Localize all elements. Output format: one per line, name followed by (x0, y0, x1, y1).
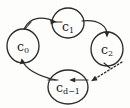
node-c1-label-base: c (62, 19, 69, 34)
cycle-diagram-canvas: c0 c1 c2 cd−1 (0, 0, 130, 108)
node-c2[interactable]: c2 (91, 32, 123, 66)
node-cd-minus-1[interactable]: cd−1 (48, 70, 88, 104)
edge-c1-to-c2-path (82, 21, 107, 36)
node-cd-minus-1-label: cd−1 (56, 80, 80, 96)
node-c0-label-sub: 0 (24, 46, 29, 55)
edge-inner-cd-minus-1-arrowhead (70, 78, 76, 83)
node-c2-label: c2 (101, 42, 113, 58)
node-c2-label-base: c (101, 42, 108, 57)
edge-cd-minus-1-to-c0 (20, 59, 56, 80)
edge-c2-to-cd-minus-1-path (93, 62, 122, 80)
node-cd-minus-1-label-sub: d−1 (63, 87, 80, 96)
node-c1-label: c1 (62, 19, 74, 35)
edge-c0-to-c1-arrowhead (50, 19, 56, 24)
edge-c2-to-cd-minus-1-arrowhead (91, 76, 98, 82)
node-c1[interactable]: c1 (52, 8, 84, 38)
node-c0-label: c0 (17, 39, 29, 55)
cycle-diagram-svg: c0 c1 c2 cd−1 (0, 0, 130, 108)
node-cd-minus-1-label-base: c (56, 80, 63, 95)
node-c1-label-sub: 1 (69, 26, 74, 35)
edge-c1-to-c2 (82, 21, 110, 37)
node-c0[interactable]: c0 (7, 29, 39, 63)
node-c0-label-base: c (17, 39, 24, 54)
edge-inner-cd-minus-1 (48, 78, 88, 83)
node-c2-label-sub: 2 (108, 49, 113, 58)
